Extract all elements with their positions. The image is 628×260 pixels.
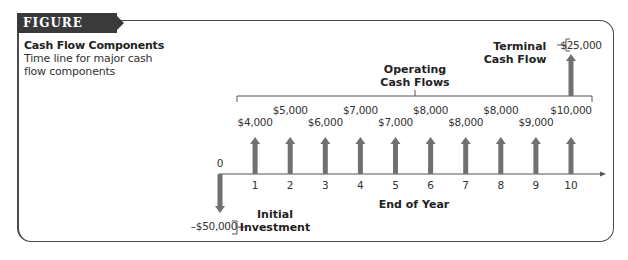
operating-arrow-year-9 — [533, 143, 538, 174]
year-label-6: 6 — [427, 179, 434, 191]
terminal-cash-flow-arrow-head — [566, 54, 576, 61]
operating-arrow-year-5 — [393, 143, 398, 174]
initial-investment-label: Initial Investment — [240, 208, 310, 234]
operating-arrow-year-5-head — [391, 137, 401, 144]
operating-value-year-2: $5,000 — [273, 104, 308, 116]
year-zero-label: 0 — [217, 157, 224, 169]
operating-value-year-1: $4,000 — [238, 116, 273, 128]
operating-arrow-year-7 — [463, 143, 468, 174]
year-label-2: 2 — [287, 179, 294, 191]
year-label-1: 1 — [252, 179, 259, 191]
operating-value-year-9: $9,000 — [518, 116, 553, 128]
operating-value-year-10: $10,000 — [550, 104, 591, 116]
year-label-4: 4 — [357, 179, 364, 191]
operating-arrow-year-4 — [358, 143, 363, 174]
operating-arrow-year-4-head — [355, 137, 365, 144]
operating-value-year-5: $7,000 — [378, 116, 413, 128]
operating-arrow-year-10-head — [566, 137, 576, 144]
operating-arrow-year-10 — [569, 143, 574, 174]
axis-label-end-of-year: End of Year — [379, 198, 450, 211]
terminal-value-label: $25,000 — [560, 39, 601, 51]
operating-arrow-year-6-head — [426, 137, 436, 144]
operating-value-year-6: $8,000 — [413, 104, 448, 116]
operating-arrow-year-8 — [498, 143, 503, 174]
year-label-7: 7 — [462, 179, 469, 191]
cash-flow-timeline: Operating Cash Flows Terminal Cash Flow … — [0, 0, 628, 260]
initial-investment-arrow-head — [215, 206, 225, 213]
operating-value-year-4: $7,000 — [343, 104, 378, 116]
timeline-graphic — [0, 0, 628, 260]
operating-arrow-year-8-head — [496, 137, 506, 144]
operating-arrow-year-2-head — [285, 137, 295, 144]
initial-investment-arrow — [218, 174, 223, 207]
year-label-3: 3 — [322, 179, 329, 191]
operating-value-year-8: $8,000 — [483, 104, 518, 116]
initial-investment-value: –$50,000 — [191, 220, 237, 232]
operating-value-year-3: $6,000 — [308, 116, 343, 128]
year-label-8: 8 — [497, 179, 504, 191]
operating-bracket — [237, 96, 592, 102]
operating-arrow-year-6 — [428, 143, 433, 174]
terminal-cash-flow-label: Terminal Cash Flow — [484, 40, 547, 66]
operating-arrow-year-1 — [253, 143, 258, 174]
operating-arrow-year-2 — [288, 143, 293, 174]
operating-arrow-year-3-head — [320, 137, 330, 144]
operating-arrow-year-3 — [323, 143, 328, 174]
year-label-5: 5 — [392, 179, 399, 191]
operating-cash-flows-label: Operating Cash Flows — [380, 63, 449, 89]
operating-value-year-7: $8,000 — [448, 116, 483, 128]
axis-arrowhead-icon — [600, 172, 606, 177]
year-label-10: 10 — [564, 179, 577, 191]
operating-arrow-year-7-head — [461, 137, 471, 144]
terminal-cash-flow-arrow — [569, 60, 574, 96]
operating-arrow-year-9-head — [531, 137, 541, 144]
operating-arrow-year-1-head — [250, 137, 260, 144]
year-label-9: 9 — [533, 179, 540, 191]
